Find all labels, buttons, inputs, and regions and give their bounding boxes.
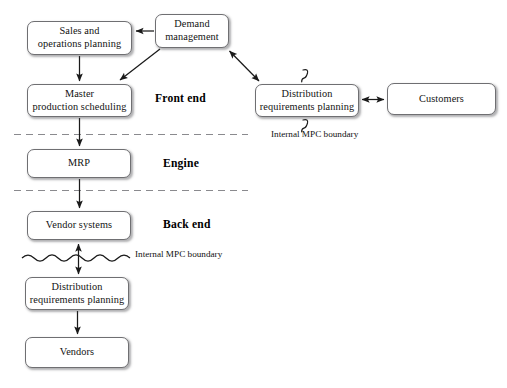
note-line: boundary [188,249,223,259]
node-master-production-scheduling[interactable]: Master production scheduling [27,84,132,117]
node-label-line: Vendor systems [43,219,115,232]
diagram-connectors-layer [0,0,507,388]
node-label-line: requirements planning [257,101,357,114]
node-label-line: requirements planning [27,294,127,307]
node-customers[interactable]: Customers [387,83,496,115]
node-distribution-requirements-planning-back[interactable]: Distribution requirements planning [25,277,129,310]
node-label-line: MRP [65,157,93,170]
node-label-line: Vendors [57,346,97,359]
node-vendors[interactable]: Vendors [25,337,129,368]
zone-label-front-end: Front end [155,92,206,105]
node-label-line: Distribution [257,88,357,101]
node-label-line: Demand [162,18,222,31]
node-label-line: Distribution [27,281,127,294]
note-line: Internal MPC [135,249,185,259]
wavy-mpc-boundary [22,255,130,261]
zone-label-engine: Engine [163,157,199,170]
node-label-line: Master [30,88,130,101]
connector-demand-to-drp-front [230,51,260,81]
note-line: boundary [324,129,359,139]
node-sales-and-operations-planning[interactable]: Sales and operations planning [27,21,132,55]
node-label-line: production scheduling [30,101,130,114]
note-internal-mpc-boundary-right: Internal MPC boundary [271,129,358,140]
node-label-line: management [162,31,222,44]
squiggle-above-drp-front-icon [302,70,308,82]
node-distribution-requirements-planning-front[interactable]: Distribution requirements planning [255,84,359,117]
node-vendor-systems[interactable]: Vendor systems [27,211,131,240]
node-label-line: operations planning [35,38,124,51]
mpc-framework-diagram: Sales and operations planning Demand man… [0,0,507,388]
node-mrp[interactable]: MRP [27,149,131,178]
note-internal-mpc-boundary-left: Internal MPC boundary [135,249,222,260]
note-line: Internal MPC [271,129,321,139]
node-label-line: Sales and [35,25,124,38]
node-demand-management[interactable]: Demand management [155,14,229,48]
node-label-line: Customers [416,93,467,106]
zone-label-back-end: Back end [163,218,211,231]
